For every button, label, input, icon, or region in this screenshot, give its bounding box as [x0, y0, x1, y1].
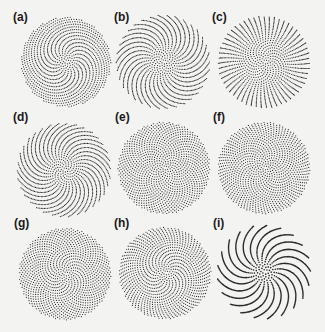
phyllotaxis-pattern: [216, 120, 312, 216]
phyllotaxis-pattern: [215, 223, 313, 321]
phyllotaxis-pattern: [216, 14, 312, 110]
phyllotaxis-pattern: [19, 15, 113, 109]
phyllotaxis-pattern: [116, 120, 212, 216]
phyllotaxis-pattern: [15, 121, 113, 219]
phyllotaxis-pattern: [117, 225, 213, 321]
phyllotaxis-pattern: [17, 226, 113, 322]
phyllotaxis-pattern: [114, 13, 212, 111]
